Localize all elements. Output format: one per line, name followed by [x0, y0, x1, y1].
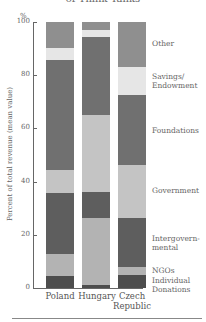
legend-savings-endowment: Savings/ Endowment: [152, 72, 197, 90]
legend-government: Government: [152, 186, 199, 195]
bar-hungary: [82, 22, 110, 288]
bar-segment-individual-donations: [118, 275, 146, 288]
bar-czech-republic: [118, 22, 146, 288]
y-tick-label: 40: [8, 177, 30, 185]
y-tick-label: 80: [8, 70, 30, 78]
x-axis-line: [33, 288, 143, 289]
y-tick: [33, 288, 37, 289]
y-tick-label: 20: [8, 230, 30, 238]
bar-segment-ngos: [82, 218, 110, 285]
legend-foundations: Foundations: [152, 126, 199, 135]
bar-segment-intergovernmental: [118, 218, 146, 267]
bar-segment-savings-endowment: [82, 30, 110, 37]
bar-segment-foundations: [82, 37, 110, 115]
legend-line: mental: [152, 243, 200, 252]
y-tick: [33, 75, 37, 76]
x-label-czech-republic: Czech Republic: [112, 291, 152, 311]
y-tick-label: 60: [8, 123, 30, 131]
x-label-poland: Poland: [40, 291, 80, 301]
bar-segment-other: [46, 22, 74, 48]
bottom-rule: [12, 318, 202, 319]
bar-segment-other: [118, 22, 146, 67]
bar-segment-other: [82, 22, 110, 30]
y-axis-label: Percent of total revenue (mean value): [6, 84, 14, 224]
bar-segment-intergovernmental: [46, 193, 74, 254]
bar-poland: [46, 22, 74, 288]
legend-line: Intergovern-: [152, 234, 200, 243]
bar-segment-ngos: [118, 267, 146, 275]
y-tick: [33, 182, 37, 183]
bar-segment-savings-endowment: [46, 48, 74, 60]
chart-title: of Think Tanks: [0, 0, 206, 4]
legend-individual-donations: Individual Donations: [152, 276, 190, 294]
legend-other: Other: [152, 39, 174, 48]
legend-intergovernmental: Intergovern- mental: [152, 234, 200, 252]
y-tick-label: 0: [8, 283, 30, 291]
y-tick: [33, 22, 37, 23]
bar-segment-foundations: [46, 60, 74, 170]
bar-segment-savings-endowment: [118, 67, 146, 95]
x-label-line: Czech: [112, 291, 152, 301]
bar-segment-intergovernmental: [82, 192, 110, 218]
legend-line: Savings/: [152, 72, 197, 81]
bar-segment-government: [46, 170, 74, 193]
legend-ngos: NGOs: [152, 266, 175, 275]
legend-line: Endowment: [152, 81, 197, 90]
bar-segment-foundations: [118, 95, 146, 165]
bar-segment-individual-donations: [46, 276, 74, 288]
bar-segment-government: [82, 115, 110, 192]
y-tick: [33, 128, 37, 129]
bar-segment-individual-donations: [82, 285, 110, 288]
legend-line: Individual: [152, 276, 190, 285]
x-label-line: Republic: [112, 301, 152, 311]
y-tick-label: 100: [8, 17, 30, 25]
y-tick: [33, 235, 37, 236]
y-axis-line: [33, 22, 34, 288]
bar-segment-ngos: [46, 254, 74, 276]
legend-line: Donations: [152, 285, 190, 294]
bar-segment-government: [118, 165, 146, 218]
